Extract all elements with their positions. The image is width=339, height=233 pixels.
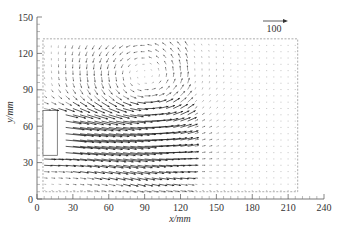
y-axis-label: y/mm bbox=[4, 101, 15, 124]
reference-vector-label: 100 bbox=[267, 23, 282, 34]
x-tick-label: 30 bbox=[68, 202, 78, 213]
x-tick-label: 210 bbox=[281, 202, 296, 213]
x-tick-label: 240 bbox=[317, 202, 332, 213]
x-tick-label: 120 bbox=[173, 202, 188, 213]
y-tick-label: 120 bbox=[18, 48, 33, 59]
y-tick-label: 30 bbox=[23, 157, 33, 168]
y-tick-label: 60 bbox=[23, 121, 33, 132]
inlet-box bbox=[43, 110, 57, 155]
vector-field-chart: 03060901201501802102400306090120150 x/mm… bbox=[0, 0, 339, 233]
x-axis-label: x/mm bbox=[168, 213, 191, 224]
x-tick-label: 0 bbox=[35, 202, 40, 213]
x-tick-label: 60 bbox=[104, 202, 114, 213]
x-tick-label: 150 bbox=[209, 202, 224, 213]
y-tick-label: 90 bbox=[23, 84, 33, 95]
x-tick-label: 90 bbox=[140, 202, 150, 213]
x-tick-label: 180 bbox=[245, 202, 260, 213]
velocity-vectors bbox=[44, 41, 296, 192]
y-tick-label: 0 bbox=[28, 194, 33, 205]
y-tick-label: 150 bbox=[18, 12, 33, 23]
